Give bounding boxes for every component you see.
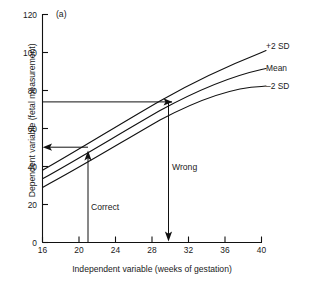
x-tick-label-20: 20 <box>67 246 91 254</box>
figure-panel-a: (a) 0 20 40 60 80 100 120 16 20 24 28 32… <box>0 0 309 291</box>
x-tick-label-16: 16 <box>31 246 55 254</box>
x-axis-title: Independent variable (weeks of gestation… <box>42 265 262 274</box>
annotation-label-correct: Correct <box>91 203 119 212</box>
x-tick-label-36: 36 <box>213 246 237 254</box>
x-tick-label-24: 24 <box>104 246 128 254</box>
x-tick-label-32: 32 <box>177 246 201 254</box>
x-tick-label-40: 40 <box>250 246 274 254</box>
series-label-plus2sd: +2 SD <box>266 42 290 50</box>
series-label-minus2sd: –2 SD <box>266 82 289 90</box>
y-axis-title: Dependent variable (fetal measurement) <box>28 25 37 215</box>
annotation-label-wrong: Wrong <box>172 163 197 172</box>
panel-label: (a) <box>56 10 67 19</box>
y-tick-label-120: 120 <box>13 11 37 19</box>
x-tick-label-28: 28 <box>140 246 164 254</box>
series-label-mean: Mean <box>266 64 287 72</box>
curve-plus2sd <box>43 53 262 171</box>
